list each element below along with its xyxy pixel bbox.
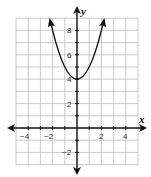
- x-tick-label: −4: [20, 132, 30, 141]
- y-tick-label: 8: [67, 26, 72, 35]
- y-tick-label: 2: [67, 100, 72, 109]
- x-axis-label: x: [138, 113, 145, 125]
- y-axis-label: y: [79, 5, 86, 17]
- y-tick-label: −2: [62, 148, 72, 157]
- coordinate-plane: y x −4 −2 2 4 8 6 4 2 −2: [0, 0, 151, 177]
- x-tick-label: 4: [123, 132, 128, 141]
- x-tick-label: 2: [99, 132, 104, 141]
- x-tick-label: −2: [44, 132, 54, 141]
- y-tick-label: 6: [67, 51, 72, 60]
